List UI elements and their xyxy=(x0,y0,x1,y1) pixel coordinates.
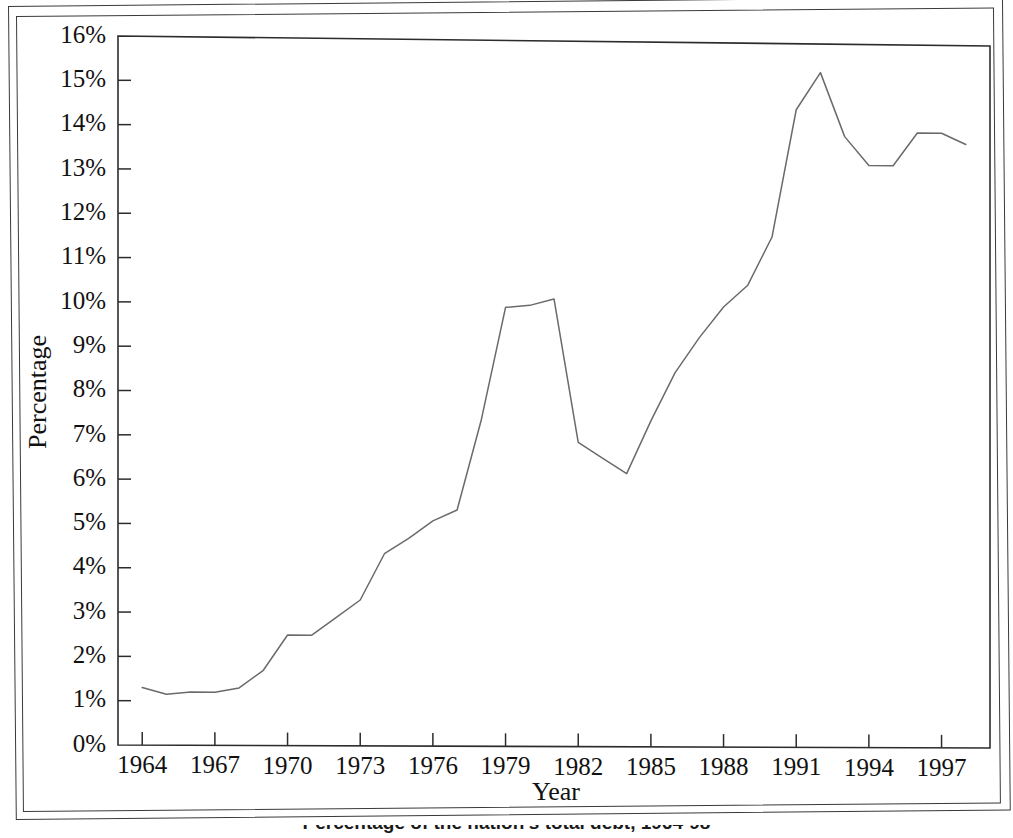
y-axis-tick-label: 11% xyxy=(61,242,106,269)
x-axis-tick-label: 1967 xyxy=(190,751,240,778)
y-axis-tick-label: 15% xyxy=(60,65,106,92)
y-axis-tick-label: 3% xyxy=(73,597,106,624)
y-axis-ticks xyxy=(118,80,131,700)
y-axis-tick-label: 4% xyxy=(73,552,106,579)
scanned-page: 0%1%2%3%4%5%6%7%8%9%10%11%12%13%14%15%16… xyxy=(0,0,1013,838)
x-axis-title: Year xyxy=(532,777,580,800)
x-axis-tick-label: 1970 xyxy=(263,752,313,779)
y-axis-tick-label: 8% xyxy=(73,375,106,402)
x-axis-tick-label: 1973 xyxy=(335,752,385,779)
x-axis-tick-label: 1985 xyxy=(626,753,676,780)
y-axis-tick-label: 16% xyxy=(60,21,106,48)
y-axis-tick-label: 10% xyxy=(60,287,106,314)
x-axis-tick-label: 1994 xyxy=(844,754,895,781)
axis-frame xyxy=(118,36,990,748)
x-axis-tick-label: 1982 xyxy=(553,753,603,780)
x-axis-tick-label: 1979 xyxy=(481,752,531,779)
x-axis-tick-label: 1997 xyxy=(917,754,967,781)
x-axis-tick-label: 1976 xyxy=(408,752,458,779)
figure-caption-clip: Percentage of the nation's total debt, 1… xyxy=(0,825,1013,838)
y-axis-tick-label: 12% xyxy=(60,198,106,225)
data-series-line xyxy=(142,73,966,695)
line-chart: 0%1%2%3%4%5%6%7%8%9%10%11%12%13%14%15%16… xyxy=(0,0,1013,800)
y-axis-tick-label: 7% xyxy=(73,420,106,447)
plot-axes xyxy=(118,36,990,748)
y-axis-tick-label: 9% xyxy=(73,331,106,358)
y-axis-tick-label: 0% xyxy=(73,730,106,757)
x-axis-tick-label: 1991 xyxy=(771,753,821,780)
y-axis-title: Percentage xyxy=(23,335,52,449)
y-axis-tick-label: 1% xyxy=(73,685,106,712)
y-axis-tick-label: 2% xyxy=(73,641,106,668)
x-axis-tick-label: 1964 xyxy=(117,751,168,778)
y-axis-tick-labels: 0%1%2%3%4%5%6%7%8%9%10%11%12%13%14%15%16… xyxy=(60,21,106,757)
chart-canvas: 0%1%2%3%4%5%6%7%8%9%10%11%12%13%14%15%16… xyxy=(0,0,1013,800)
y-axis-tick-label: 6% xyxy=(73,464,106,491)
figure-caption: Percentage of the nation's total debt, 1… xyxy=(0,825,1013,834)
y-axis-tick-label: 13% xyxy=(60,154,106,181)
y-axis-tick-label: 5% xyxy=(73,508,106,535)
x-axis-tick-label: 1988 xyxy=(699,753,749,780)
y-axis-tick-label: 14% xyxy=(60,109,106,136)
